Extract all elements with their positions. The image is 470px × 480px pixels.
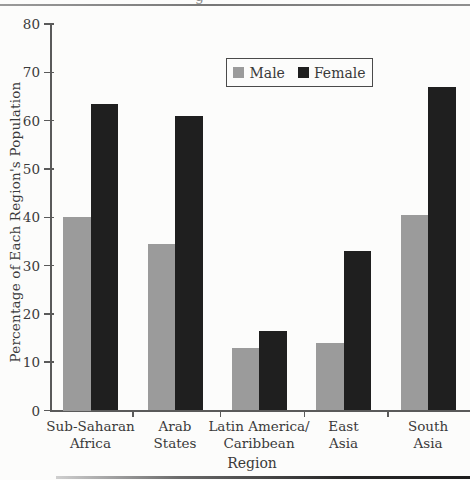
page-bottom-rule <box>56 476 470 479</box>
y-tick-70 <box>44 72 54 74</box>
x-tick-2 <box>304 410 306 417</box>
y-tick-0 <box>44 410 54 412</box>
x-tick-3 <box>387 410 389 417</box>
bar-male-2 <box>232 348 260 411</box>
y-tick-label-0: 0 <box>12 404 40 418</box>
y-tick-40 <box>44 217 54 219</box>
bar-female-3 <box>344 251 372 410</box>
x-axis-title: Region <box>50 455 454 471</box>
x-tick-0 <box>132 410 134 417</box>
bar-male-3 <box>316 343 344 411</box>
bar-female-1 <box>175 116 203 411</box>
y-tick-label-10: 10 <box>12 355 40 369</box>
bar-female-4 <box>428 87 456 411</box>
y-tick-label-30: 30 <box>12 259 40 273</box>
y-tick-label-60: 60 <box>12 114 40 128</box>
y-tick-20 <box>44 313 54 315</box>
bar-male-4 <box>401 215 429 411</box>
legend: Male Female <box>226 58 373 87</box>
y-tick-80 <box>44 23 54 25</box>
y-tick-label-20: 20 <box>12 307 40 321</box>
category-label-4: South Asia <box>368 418 470 452</box>
male-swatch-icon <box>233 67 244 78</box>
y-tick-label-70: 70 <box>12 65 40 79</box>
female-swatch-icon <box>298 67 309 78</box>
legend-item-male: Male <box>233 65 284 81</box>
y-tick-60 <box>44 120 54 122</box>
y-tick-label-80: 80 <box>12 17 40 31</box>
y-tick-50 <box>44 168 54 170</box>
legend-label-male: Male <box>249 65 284 81</box>
y-tick-10 <box>44 361 54 363</box>
cropped-caption-fragment: g <box>193 0 211 4</box>
y-tick-30 <box>44 265 54 267</box>
y-tick-label-50: 50 <box>12 162 40 176</box>
bar-female-2 <box>259 331 287 411</box>
bar-male-1 <box>148 244 176 411</box>
legend-item-female: Female <box>298 65 366 81</box>
page-top-rule <box>0 4 470 6</box>
bar-male-0 <box>63 217 91 410</box>
legend-label-female: Female <box>314 65 366 81</box>
bar-female-0 <box>91 104 119 411</box>
y-tick-label-40: 40 <box>12 210 40 224</box>
x-tick-1 <box>220 410 222 417</box>
